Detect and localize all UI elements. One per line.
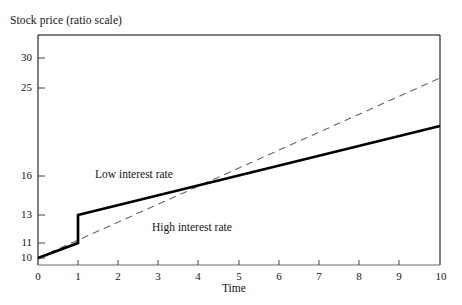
- y-tick-label-25: 25: [14, 81, 32, 93]
- x-tick-label-7: 7: [309, 270, 329, 282]
- chart-figure: Stock price (ratio scale): [0, 0, 462, 305]
- y-tick-label-10: 10: [14, 251, 32, 263]
- x-tick-label-4: 4: [188, 270, 208, 282]
- chart-plot-area: [0, 0, 462, 305]
- x-tick-label-0: 0: [28, 270, 48, 282]
- x-axis-ticks: [78, 260, 399, 265]
- x-tick-label-2: 2: [108, 270, 128, 282]
- x-tick-label-10: 10: [430, 270, 452, 282]
- y-tick-label-30: 30: [14, 51, 32, 63]
- x-tick-label-8: 8: [349, 270, 369, 282]
- y-axis-ticks: [38, 58, 45, 258]
- x-tick-label-6: 6: [269, 270, 289, 282]
- y-tick-label-11: 11: [14, 236, 32, 248]
- x-tick-label-5: 5: [229, 270, 249, 282]
- series-low-interest-rate: [38, 126, 440, 258]
- y-tick-label-16: 16: [14, 169, 32, 181]
- y-tick-label-13: 13: [14, 208, 32, 220]
- x-tick-label-3: 3: [148, 270, 168, 282]
- x-tick-label-1: 1: [68, 270, 88, 282]
- x-tick-label-9: 9: [389, 270, 409, 282]
- x-axis-title: Time: [222, 282, 246, 294]
- series-label-low-interest-rate: Low interest rate: [95, 168, 173, 180]
- series-label-high-interest-rate: High interest rate: [152, 221, 232, 233]
